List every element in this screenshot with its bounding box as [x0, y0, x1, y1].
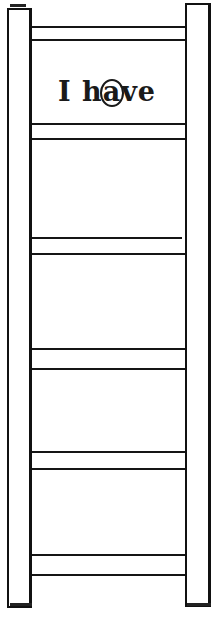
- label-prefix: I h: [58, 76, 103, 107]
- rung-6-top: [32, 554, 185, 556]
- rung-5-top: [32, 451, 185, 453]
- left-rail-foot: [10, 603, 32, 606]
- rung-4-bottom: [32, 368, 185, 370]
- right-rail-foot: [187, 603, 211, 606]
- circled-letter: a: [103, 76, 122, 107]
- left-rail-cap: [10, 4, 26, 7]
- rung-5-bottom: [32, 468, 185, 470]
- label-suffix: ve: [121, 76, 156, 107]
- ladder-left-rail: [7, 8, 32, 608]
- rung-3-bottom: [32, 253, 185, 255]
- rung-4-top: [32, 348, 185, 350]
- rung-2-top: [32, 123, 185, 125]
- ladder-label: I have: [58, 76, 156, 107]
- rung-2-bottom: [32, 138, 185, 140]
- rung-3-top: [32, 237, 182, 239]
- ladder-right-rail: [185, 3, 211, 607]
- rung-1-bottom: [32, 39, 185, 41]
- rung-1-top: [32, 26, 185, 28]
- rung-6-bottom: [32, 574, 185, 576]
